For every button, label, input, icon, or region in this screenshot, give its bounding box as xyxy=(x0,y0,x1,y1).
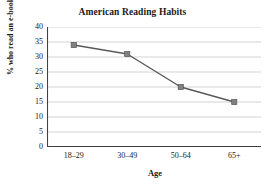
y-axis-tick-labels: 4035302520151050 xyxy=(12,27,43,147)
data-point-marker xyxy=(232,99,237,104)
x-tick-label: 18–29 xyxy=(44,151,104,160)
chart-container: American Reading Habits % who read an e-… xyxy=(0,0,265,189)
data-line xyxy=(74,45,235,102)
plot-area xyxy=(47,27,261,147)
y-tick-label: 20 xyxy=(17,83,43,91)
y-tick-label: 30 xyxy=(17,53,43,61)
x-axis-title: Age xyxy=(47,168,263,178)
y-tick-label: 10 xyxy=(17,113,43,121)
data-point-marker xyxy=(178,84,183,89)
y-tick-label: 25 xyxy=(17,68,43,76)
data-point-marker xyxy=(71,42,76,47)
x-tick-label: 30–49 xyxy=(97,151,157,160)
plot-svg xyxy=(47,27,261,147)
y-tick-label: 0 xyxy=(17,143,43,151)
gridlines xyxy=(47,27,261,132)
x-axis-tick-labels: 18–2930–4950–6465+ xyxy=(47,151,261,165)
y-tick-label: 5 xyxy=(17,128,43,136)
y-tick-label: 40 xyxy=(17,23,43,31)
chart-title: American Reading Habits xyxy=(0,7,265,17)
x-tick-label: 50–64 xyxy=(151,151,211,160)
x-tick-label: 65+ xyxy=(204,151,264,160)
y-tick-label: 15 xyxy=(17,98,43,106)
data-point-marker xyxy=(125,51,130,56)
y-tick-label: 35 xyxy=(17,38,43,46)
